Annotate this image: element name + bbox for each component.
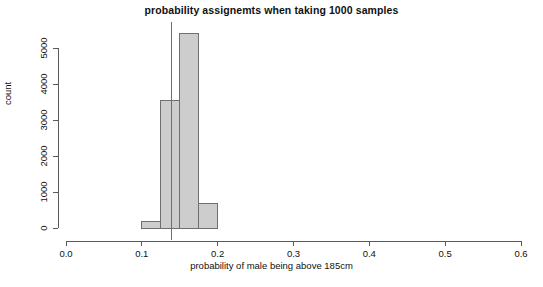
y-tick-label: 3000 bbox=[38, 109, 49, 130]
y-tick-label: 5000 bbox=[38, 37, 49, 58]
x-tick-label: 0.1 bbox=[135, 248, 148, 259]
y-tick-label: 1000 bbox=[38, 181, 49, 202]
y-tick-label: 0 bbox=[38, 225, 49, 230]
x-tick-label: 0.0 bbox=[59, 248, 72, 259]
axes-group bbox=[53, 48, 521, 246]
histogram-bar bbox=[161, 100, 180, 228]
bars-group bbox=[142, 34, 218, 228]
y-tick-label: 2000 bbox=[38, 145, 49, 166]
histogram-bar bbox=[180, 34, 199, 228]
x-tick-label: 0.4 bbox=[363, 248, 376, 259]
plot-canvas bbox=[0, 0, 543, 287]
x-tick-label: 0.3 bbox=[287, 248, 300, 259]
histogram-plot: probability assignemts when taking 1000 … bbox=[0, 0, 543, 287]
x-tick-label: 0.2 bbox=[211, 248, 224, 259]
histogram-bar bbox=[199, 203, 218, 228]
histogram-bar bbox=[142, 221, 161, 228]
y-tick-label: 4000 bbox=[38, 73, 49, 94]
x-tick-label: 0.5 bbox=[439, 248, 452, 259]
x-tick-label: 0.6 bbox=[514, 248, 527, 259]
